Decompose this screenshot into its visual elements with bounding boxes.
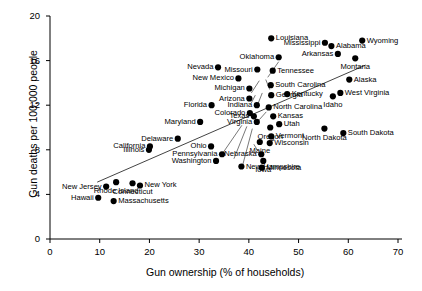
- x-tick-label: 0: [30, 246, 70, 257]
- y-axis-title: Gun deaths per 100,000 people: [27, 29, 39, 219]
- point-label: Montana: [340, 63, 370, 71]
- point-label: New Mexico: [193, 74, 234, 82]
- x-tick-label: 40: [229, 246, 269, 257]
- gun-deaths-scatter-chart: 010203040506070048121620 LouisianaWyomin…: [0, 0, 422, 291]
- point-label: Tennessee: [277, 66, 314, 74]
- point-label: Michigan: [214, 84, 244, 92]
- point-label: Minnesota: [266, 163, 301, 171]
- point-label: Alabama: [336, 42, 366, 50]
- x-tick-label: 30: [179, 246, 219, 257]
- point-label: Oklahoma: [240, 53, 275, 61]
- point-label: Idaho: [323, 101, 342, 109]
- point-label: Nebraska: [224, 150, 257, 158]
- point-label: Delaware: [141, 134, 173, 142]
- point-label: Maryland: [164, 118, 195, 126]
- point-label: Georgia: [276, 91, 303, 99]
- point-label: West Virginia: [345, 89, 389, 97]
- point-label: Utah: [284, 120, 300, 128]
- x-tick-label: 50: [279, 246, 319, 257]
- point-label: Massachusetts: [118, 197, 169, 205]
- x-tick-label: 60: [328, 246, 368, 257]
- point-label: Mississippi: [284, 39, 321, 47]
- point-label: Wisconsin: [274, 139, 309, 147]
- point-label: Illinois: [123, 146, 144, 154]
- point-label: Wyoming: [367, 36, 399, 44]
- x-tick-label: 20: [129, 246, 169, 257]
- y-tick-label: 0: [2, 233, 40, 244]
- x-tick-label: 10: [80, 246, 120, 257]
- point-label: New Jersey: [62, 182, 102, 190]
- x-tick-label: 70: [378, 246, 418, 257]
- y-tick-label: 20: [2, 10, 40, 21]
- point-label: Virginia: [227, 118, 252, 126]
- point-label: Florida: [184, 101, 207, 109]
- point-label: Arkansas: [302, 50, 334, 58]
- point-label: New York: [144, 181, 176, 189]
- x-axis-title: Gun ownership (% of households): [146, 266, 304, 278]
- point-label: Nevada: [187, 63, 213, 71]
- point-label: Washington: [172, 157, 212, 165]
- point-label: Hawaii: [71, 194, 94, 202]
- point-label: South Dakota: [348, 129, 394, 137]
- point-label: Alaska: [354, 75, 377, 83]
